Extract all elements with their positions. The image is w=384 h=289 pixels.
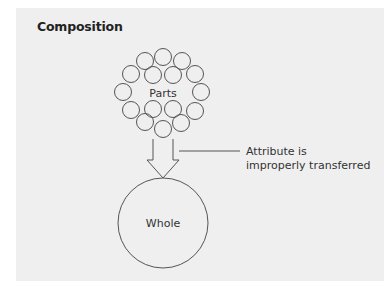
part-circle	[115, 84, 132, 101]
part-circle	[165, 67, 182, 84]
part-circle	[187, 66, 204, 83]
part-circle	[123, 102, 140, 119]
whole-label: Whole	[146, 217, 181, 230]
part-circle	[137, 114, 154, 131]
part-circle	[155, 49, 172, 66]
part-circle	[123, 66, 140, 83]
part-circle	[187, 103, 204, 120]
annotation-line1: Attribute is	[246, 145, 307, 158]
part-circle	[145, 101, 162, 118]
transfer-arrow	[147, 139, 179, 178]
part-circle	[145, 67, 162, 84]
composition-diagram: Parts Attribute is improperly transferre…	[0, 0, 384, 289]
parts-label: Parts	[149, 87, 177, 100]
annotation-line2: improperly transferred	[246, 159, 370, 172]
part-circle	[193, 84, 210, 101]
part-circle	[173, 115, 190, 132]
part-circle	[155, 121, 172, 138]
